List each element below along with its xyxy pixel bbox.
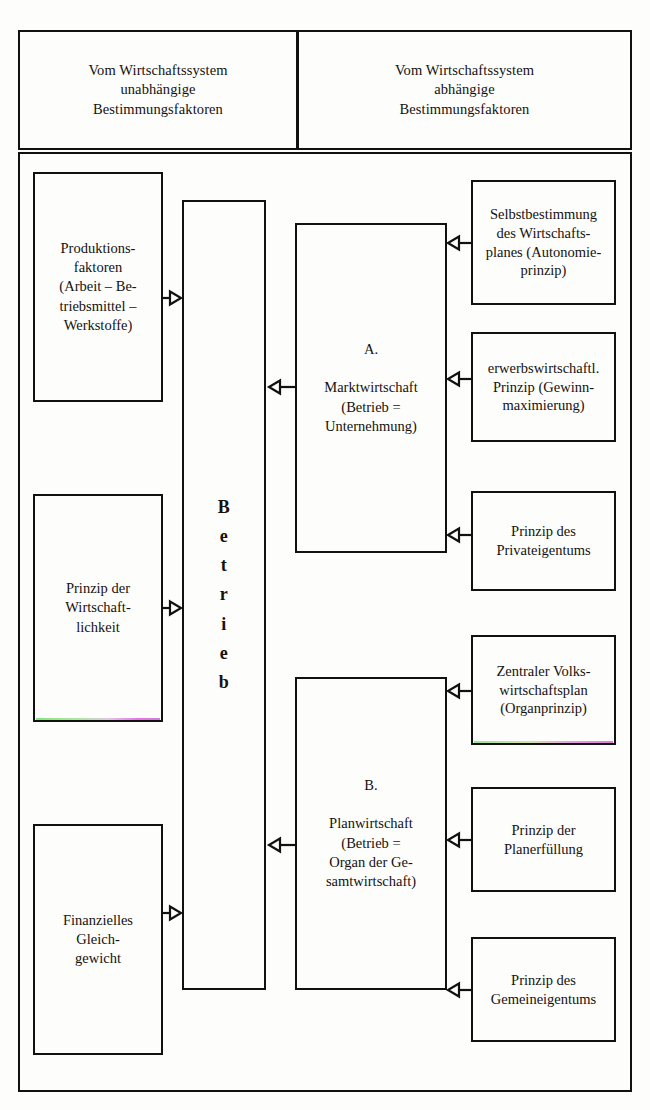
arrow-privateigentum-to-marktwirtschaft [447,525,472,545]
node-gleichgewicht: Finanzielles Gleich- gewicht [33,824,163,1055]
header-cell-dependent: Vom Wirtschaftssystem abhängige Bestimmu… [297,30,632,150]
node-planerfuellung: Prinzip der Planerfüllung [471,787,616,892]
arrow-autonomieprinzip-to-marktwirtschaft [447,233,472,253]
node-betrieb: B e t r i e b [182,200,266,990]
node-planerfuellung-label: Prinzip der Planerfüllung [504,821,583,859]
node-autonomieprinzip: Selbstbestimmung des Wirtschafts- planes… [471,180,616,305]
header-dependent-label: Vom Wirtschaftssystem abhängige Bestimmu… [395,61,534,118]
node-privateigentum-label: Prinzip des Privateigentums [473,522,614,560]
node-planwirtschaft: B. Planwirtschaft (Betrieb = Organ der G… [295,677,447,990]
node-marktwirtschaft-label: A. Marktwirtschaft (Betrieb = Unternehmu… [324,340,417,436]
node-wirtschaftlichkeit-label: Prinzip der Wirtschaft- lichkeit [65,579,130,636]
arrow-erwerbsprinzip-to-marktwirtschaft [447,369,472,389]
diagram-canvas: Vom Wirtschaftssystem unabhängige Bestim… [0,0,650,1110]
node-gemeineigentum-label: Prinzip des Gemeineigentums [473,971,614,1009]
node-gemeineigentum: Prinzip des Gemeineigentums [471,937,616,1042]
node-gleichgewicht-label: Finanzielles Gleich- gewicht [63,911,133,968]
node-autonomieprinzip-label: Selbstbestimmung des Wirtschafts- planes… [473,205,614,280]
arrow-planwirtschaft-to-betrieb [266,835,296,855]
arrow-produktionsfaktoren-to-betrieb [163,288,183,308]
arrow-organprinzip-to-planwirtschaft [447,681,472,701]
node-marktwirtschaft: A. Marktwirtschaft (Betrieb = Unternehmu… [295,223,447,553]
node-erwerbsprinzip: erwerbswirtschaftl. Prinzip (Gewinn- max… [471,332,616,442]
arrow-planerfuellung-to-planwirtschaft [447,830,472,850]
node-organprinzip: Zentraler Volks- wirtschaftsplan (Organp… [471,635,616,745]
header-cell-independent: Vom Wirtschaftssystem unabhängige Bestim… [18,30,298,150]
arrow-marktwirtschaft-to-betrieb [266,377,296,397]
node-erwerbsprinzip-label: erwerbswirtschaftl. Prinzip (Gewinn- max… [473,359,614,416]
node-betrieb-label: B e t r i e b [218,493,231,697]
node-organprinzip-label: Zentraler Volks- wirtschaftsplan (Organp… [496,662,590,719]
node-produktionsfaktoren: Produktions- faktoren (Arbeit – Be- trie… [33,172,163,402]
header-independent-label: Vom Wirtschaftssystem unabhängige Bestim… [88,61,227,118]
arrow-gemeineigentum-to-planwirtschaft [447,980,472,1000]
arrow-wirtschaftlichkeit-to-betrieb [163,598,183,618]
node-privateigentum: Prinzip des Privateigentums [471,491,616,591]
node-planwirtschaft-label: B. Planwirtschaft (Betrieb = Organ der G… [326,776,416,891]
node-wirtschaftlichkeit: Prinzip der Wirtschaft- lichkeit [33,494,163,722]
arrow-gleichgewicht-to-betrieb [163,903,183,923]
node-produktionsfaktoren-label: Produktions- faktoren (Arbeit – Be- trie… [59,239,136,335]
